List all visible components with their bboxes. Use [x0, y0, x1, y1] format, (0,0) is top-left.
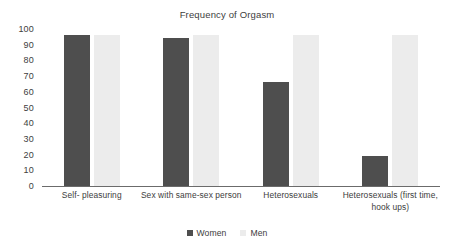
- women-swatch-icon: [187, 230, 193, 236]
- bar-women-1: [64, 35, 90, 186]
- men-swatch-icon: [240, 230, 246, 236]
- bar-group: [42, 29, 142, 186]
- legend-item-men[interactable]: Men: [240, 228, 267, 238]
- bar-women-2: [163, 38, 189, 186]
- bar-men-4: [392, 35, 418, 186]
- x-axis-line: [42, 186, 440, 187]
- x-axis-category-label-line: hook ups): [333, 202, 449, 214]
- bar-men-3: [293, 35, 319, 186]
- bar-men-1: [94, 35, 120, 186]
- legend-label: Women: [197, 228, 227, 238]
- chart-legend: WomenMen: [0, 228, 454, 238]
- y-axis-tick-label: 70: [24, 71, 34, 81]
- legend-label: Men: [250, 228, 267, 238]
- x-axis-category-label-line: Self- pleasuring: [34, 190, 150, 202]
- x-axis-category-label-line: Sex with same-sex person: [134, 190, 250, 202]
- bar-group: [241, 29, 341, 186]
- x-axis-category-label-line: Heterosexuals (first time,: [333, 190, 449, 202]
- plot-area: [42, 29, 440, 186]
- y-axis-tick-label: 50: [24, 103, 34, 113]
- x-axis-category-label: Heterosexuals (first time,hook ups): [333, 190, 449, 213]
- x-axis-category-labels: Self- pleasuringSex with same-sex person…: [42, 190, 440, 226]
- legend-item-women[interactable]: Women: [187, 228, 227, 238]
- x-axis-category-label: Sex with same-sex person: [134, 190, 250, 202]
- bar-group: [341, 29, 441, 186]
- y-axis-tick-label: 20: [24, 150, 34, 160]
- y-axis-tick-label: 10: [24, 165, 34, 175]
- x-axis-category-label: Heterosexuals: [233, 190, 349, 202]
- y-axis-tick-label: 30: [24, 134, 34, 144]
- x-axis-category-label: Self- pleasuring: [34, 190, 150, 202]
- bar-men-2: [193, 35, 219, 186]
- y-axis-tick-labels: 1009080706050403020100: [0, 29, 38, 186]
- y-axis-tick-label: 80: [24, 55, 34, 65]
- y-axis-tick-label: 60: [24, 87, 34, 97]
- bar-chart: Frequency of Orgasm 10090807060504030201…: [0, 0, 454, 251]
- bar-group: [142, 29, 242, 186]
- chart-title: Frequency of Orgasm: [0, 9, 454, 20]
- bar-women-4: [362, 156, 388, 186]
- y-axis-tick-label: 100: [18, 24, 34, 34]
- bar-women-3: [263, 82, 289, 186]
- x-axis-category-label-line: Heterosexuals: [233, 190, 349, 202]
- y-axis-tick-label: 40: [24, 118, 34, 128]
- y-axis-tick-label: 90: [24, 40, 34, 50]
